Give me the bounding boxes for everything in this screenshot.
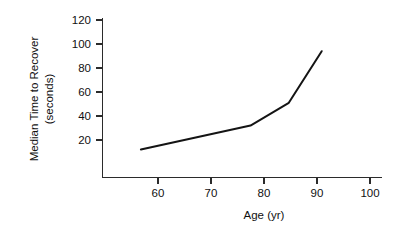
y-tick-label-40: 40 bbox=[78, 110, 91, 122]
x-tick-label-80: 80 bbox=[258, 187, 271, 199]
y-axis-ticks bbox=[96, 20, 103, 140]
series-median-time-to-recover bbox=[141, 51, 322, 149]
y-tick-label-20: 20 bbox=[78, 134, 91, 146]
y-tick-label-60: 60 bbox=[78, 86, 91, 98]
y-axis-title-line2: (seconds) bbox=[43, 74, 55, 125]
y-tick-label-100: 100 bbox=[72, 38, 91, 50]
y-axis-title-line1: Median Time to Recover bbox=[28, 37, 40, 162]
line-chart: 20 40 60 80 100 120 60 70 80 90 100 Age … bbox=[0, 0, 410, 234]
x-tick-label-60: 60 bbox=[152, 187, 165, 199]
y-tick-label-120: 120 bbox=[72, 14, 91, 26]
x-tick-label-90: 90 bbox=[311, 187, 324, 199]
x-axis-tick-labels: 60 70 80 90 100 bbox=[152, 187, 380, 199]
x-axis-ticks bbox=[158, 178, 370, 185]
y-tick-label-80: 80 bbox=[78, 62, 91, 74]
x-tick-label-70: 70 bbox=[205, 187, 218, 199]
x-tick-label-100: 100 bbox=[360, 187, 379, 199]
y-axis-tick-labels: 20 40 60 80 100 120 bbox=[72, 14, 91, 146]
x-axis-title: Age (yr) bbox=[244, 209, 285, 221]
chart-figure: 20 40 60 80 100 120 60 70 80 90 100 Age … bbox=[0, 0, 410, 234]
